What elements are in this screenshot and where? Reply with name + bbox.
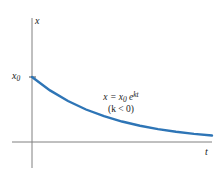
x-axis-label: t: [205, 147, 208, 157]
equation-prefix: x = x: [103, 92, 123, 102]
exponential-decay-figure: x t x0 x = x0 ekt (k < 0): [0, 0, 216, 178]
equation-annotation: x = x0 ekt (k < 0): [88, 90, 154, 116]
y-intercept-label-subscript: 0: [16, 74, 20, 83]
y-intercept-label: x0: [12, 71, 20, 83]
plot-canvas: [0, 0, 216, 178]
y-axis-label: x: [35, 16, 39, 26]
equation-line-1: x = x0 ekt: [88, 90, 154, 104]
equation-line-2: (k < 0): [88, 104, 154, 116]
equation-exponent: kt: [133, 90, 138, 99]
equation-condition: (k < 0): [108, 104, 134, 114]
